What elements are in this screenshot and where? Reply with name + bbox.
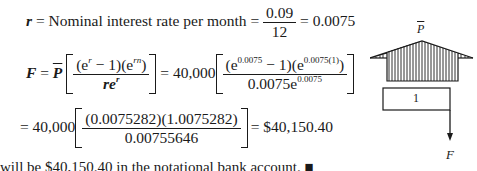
left-bracket — [66, 54, 73, 94]
final-result: = $40,150.40 — [251, 118, 333, 135]
rate-label: Nominal interest rate per month — [49, 12, 247, 29]
future-value-formula: F = P (er − 1)(ern)rer = 40,000(e0.0075 … — [26, 54, 354, 94]
numeric-evaluation: = 40,000(0.0075282)(1.0075282)0.00755646… — [20, 108, 333, 148]
diagram-p-bar-label: P — [417, 22, 424, 37]
clipped-footer-text: will be $40,150.40 in the notational ban… — [0, 161, 340, 171]
rate-result: = 0.0075 — [296, 12, 355, 29]
numeric-fraction: (e0.0075 − 1)(e0.0075(1))0.0075e0.0075 — [223, 56, 348, 93]
cash-flow-diagram: P 1 F — [370, 0, 477, 171]
p-bar: P — [53, 64, 62, 81]
nominal-rate-line: r = Nominal interest rate per month = 0.… — [26, 4, 355, 41]
diagram-f-label: F — [446, 147, 454, 163]
symbolic-fraction: (er − 1)(ern)rer — [73, 56, 149, 93]
diagram-period-label: 1 — [413, 91, 419, 106]
rate-fraction: 0.0912 — [263, 4, 296, 41]
continuous-payment-hatch — [370, 41, 473, 81]
